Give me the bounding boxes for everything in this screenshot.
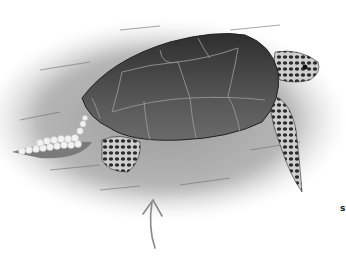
edge-cropped-text: s bbox=[340, 203, 345, 213]
turtle-head bbox=[274, 51, 319, 82]
turtle-eye bbox=[303, 65, 308, 70]
sea-turtle-illustration bbox=[0, 0, 346, 260]
